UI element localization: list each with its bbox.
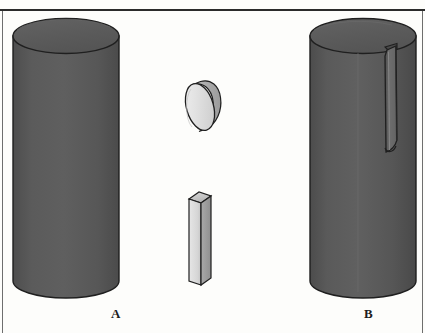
figure-container: A B (0, 0, 425, 333)
bar-specimen-front-face (189, 199, 201, 285)
right-cylinder-top-face (310, 19, 416, 54)
figure-artwork (0, 0, 425, 333)
left-cylinder (13, 19, 119, 299)
label-a: A (111, 307, 121, 320)
bar-specimen (189, 192, 211, 285)
bar-specimen-side-face (201, 196, 211, 285)
right-cylinder-body (310, 36, 416, 298)
disc-specimen (180, 80, 220, 134)
right-cylinder (310, 19, 416, 299)
left-cylinder-body (13, 36, 119, 298)
label-b: B (364, 307, 373, 320)
